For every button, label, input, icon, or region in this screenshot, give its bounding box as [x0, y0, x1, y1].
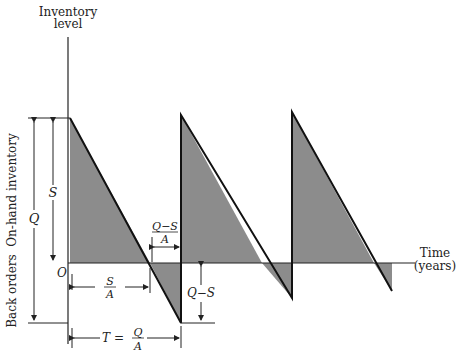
x-axis-label-line1: Time	[420, 246, 450, 260]
t-denominator: A	[133, 340, 142, 353]
shaded-inventory-areas	[70, 112, 392, 323]
inventory-sawtooth-diagram: Inventory level Time (years) O On-hand i…	[0, 0, 467, 358]
cycle-time-dimension	[72, 326, 181, 348]
on-hand-inventory-label: On-hand inventory	[5, 133, 19, 247]
origin-label: O	[57, 266, 67, 280]
y-axis-label-line2: level	[54, 17, 83, 31]
t-prefix: T =	[102, 331, 124, 345]
back-orders-label: Back orders	[5, 254, 19, 327]
q-minus-s-over-a-denominator: A	[160, 233, 169, 246]
s-over-a-numerator: S	[106, 275, 114, 288]
q-minus-s-over-a-numerator: Q−S	[152, 220, 178, 233]
t-numerator: Q	[133, 326, 142, 339]
q-minus-s-label: Q−S	[187, 286, 215, 300]
q-label: Q	[29, 211, 40, 226]
s-label: S	[49, 185, 58, 200]
s-over-a-denominator: A	[105, 288, 114, 301]
x-axis-label-line2: (years)	[414, 259, 456, 273]
